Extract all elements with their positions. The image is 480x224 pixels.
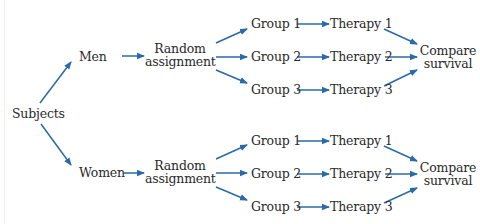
men-label: Men (79, 50, 107, 64)
women-assignment-line2: assignment (145, 172, 215, 185)
arrow-women-assign-to-group1 (216, 145, 247, 159)
men-random-assignment: Random assignment (145, 42, 215, 68)
women-compare-line2: survival (416, 174, 480, 187)
men-group2: Group 2 (251, 50, 301, 64)
women-group1: Group 1 (251, 134, 301, 148)
women-group2: Group 2 (251, 167, 301, 181)
arrow-men-therapy1-to-compare (384, 29, 417, 44)
arrow-men-assign-to-group1 (216, 29, 247, 43)
men-assignment-line2: assignment (145, 55, 215, 68)
arrow-subjects-to-men (40, 62, 71, 103)
men-therapy3: Therapy 3 (330, 83, 392, 97)
arrow-layer (0, 0, 480, 224)
men-group3: Group 3 (251, 83, 301, 97)
women-therapy2: Therapy 2 (330, 167, 392, 181)
men-compare-line2: survival (416, 57, 480, 70)
women-label: Women (79, 166, 125, 180)
men-compare-survival: Compare survival (416, 44, 480, 70)
women-group3: Group 3 (251, 200, 301, 214)
men-therapy2: Therapy 2 (330, 50, 392, 64)
women-therapy3: Therapy 3 (330, 200, 392, 214)
women-therapy1: Therapy 1 (330, 134, 392, 148)
arrow-subjects-to-women (41, 124, 71, 165)
men-therapy1: Therapy 1 (330, 17, 392, 31)
arrow-men-assign-to-group3 (216, 70, 247, 83)
arrow-women-therapy1-to-compare (384, 146, 417, 161)
men-group1: Group 1 (251, 17, 301, 31)
women-random-assignment: Random assignment (145, 159, 215, 185)
randomized-block-design-diagram: Subjects Men Random assignment Group 1 G… (0, 0, 480, 224)
arrow-women-assign-to-group3 (216, 187, 247, 200)
women-compare-survival: Compare survival (416, 161, 480, 187)
subjects-label: Subjects (12, 107, 65, 121)
